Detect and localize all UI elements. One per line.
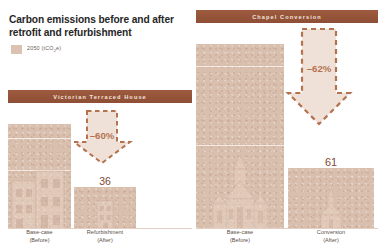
terraced-house-icon — [10, 163, 70, 229]
xlabel-conversion-chapel: Conversion (After) — [288, 229, 374, 244]
panel-header-victorian: Victorian Terraced House — [8, 90, 192, 103]
bar-column-refurbishment-victorian[interactable]: 36 — [74, 187, 136, 229]
panel-header-chapel: Chapel Conversion — [196, 10, 378, 23]
xlabel-refurbishment-victorian: Refurbishment (After) — [74, 229, 136, 244]
bar-column-base-case-chapel[interactable]: 159 — [196, 44, 284, 229]
down-arrow-icon — [288, 27, 350, 127]
bar-conversion-chapel — [288, 168, 374, 229]
bar-base-case-victorian — [8, 124, 71, 229]
bar-value-61: 61 — [288, 156, 374, 168]
chapel-icon — [199, 155, 281, 229]
xlabel-base-case-chapel: Base-case (Before) — [196, 229, 284, 244]
panel-victorian-terraced-house: Victorian Terraced House 89 — [8, 90, 192, 242]
plot-area-chapel: 159 — [196, 23, 378, 229]
legend-swatch-2050 — [11, 45, 22, 54]
panel-chapel-conversion: Chapel Conversion 159 — [196, 10, 378, 242]
reduction-label-victorian: –60% — [74, 130, 130, 141]
bar-refurbishment-victorian — [74, 187, 136, 229]
small-chapel-icon — [308, 187, 354, 229]
panel-header-label-victorian: Victorian Terraced House — [53, 94, 147, 100]
reduction-arrow-victorian: –60% — [74, 109, 130, 165]
small-house-icon — [92, 199, 118, 229]
chart-legend: 2050 (tCO2e) — [11, 45, 61, 54]
xlabel-base-case-victorian: Base-case (Before) — [8, 229, 71, 244]
bar-column-conversion-chapel[interactable]: 61 — [288, 168, 374, 229]
chart-title: Carbon emissions before and after retrof… — [9, 13, 191, 39]
bar-column-base-case-victorian[interactable]: 89 — [8, 124, 71, 229]
legend-label-2050: 2050 (tCO2e) — [27, 45, 61, 53]
panel-header-label-chapel: Chapel Conversion — [252, 14, 322, 20]
plot-area-victorian: 89 — [8, 103, 192, 229]
reduction-label-chapel: –62% — [288, 63, 350, 74]
bar-base-case-chapel — [196, 44, 284, 229]
bar-value-36: 36 — [74, 175, 136, 187]
reduction-arrow-chapel: –62% — [288, 27, 350, 127]
